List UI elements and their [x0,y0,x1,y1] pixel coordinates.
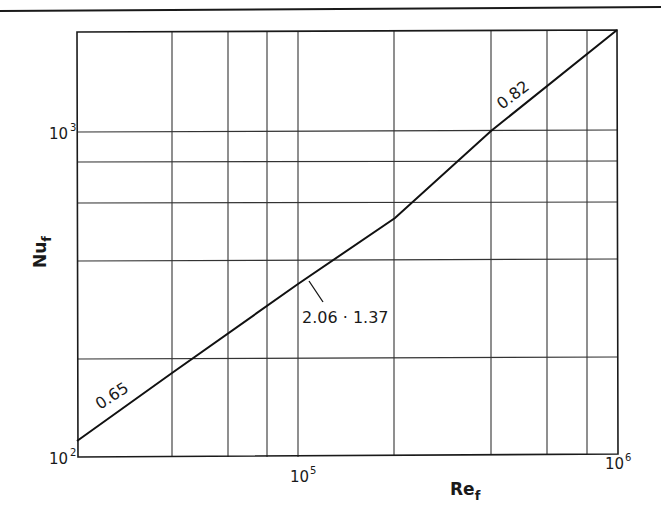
annotation-leader-line [309,281,323,302]
y-tick-label-1e2: 102 [49,447,76,468]
slope-label-low: 0.65 [92,378,132,413]
y-gridline-600 [77,202,617,203]
y-axis-title: Nuf [30,236,54,268]
x-axis-title: Ref [450,479,481,503]
y-gridline-800 [77,161,617,162]
mid-annotation-label: 2.06 · 1.37 [302,308,389,327]
data-curve [77,30,617,441]
slope-label-high: 0.82 [493,77,533,114]
y-gridline-1000 [77,130,617,132]
page-top-rule [0,7,661,11]
x-tick-label-1e5: 105 [290,465,316,486]
nusselt-reynolds-chart: 0.65 0.82 2.06 · 1.37 102 103 105 106 Re… [0,0,661,530]
y-gridline-400 [77,259,617,261]
x-tick-label-1e6: 106 [605,452,631,473]
y-tick-label-1e3: 103 [49,122,76,143]
y-gridline-200 [77,357,617,359]
